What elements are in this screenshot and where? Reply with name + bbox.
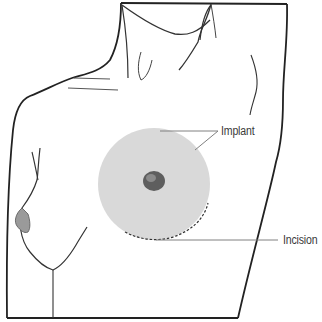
anatomy-illustration bbox=[0, 0, 322, 322]
collarbone-line-1 bbox=[74, 78, 110, 79]
neck-collar-curve bbox=[122, 5, 210, 34]
torso-right-edge bbox=[238, 4, 287, 318]
left-breast-profile bbox=[20, 148, 87, 270]
right-nipple-highlight bbox=[146, 174, 156, 182]
throat-line bbox=[138, 52, 152, 80]
neck-left-line bbox=[122, 5, 128, 78]
implant-label: Implant bbox=[221, 124, 254, 138]
chest-right-contour bbox=[250, 55, 257, 115]
neck-right-line bbox=[211, 4, 216, 38]
left-nipple bbox=[15, 208, 29, 233]
collarbone-line-2 bbox=[68, 88, 118, 90]
implant-leader-line-diagonal bbox=[195, 131, 218, 150]
torso-top-edge bbox=[121, 3, 287, 4]
incision-label: Incision bbox=[283, 233, 317, 247]
